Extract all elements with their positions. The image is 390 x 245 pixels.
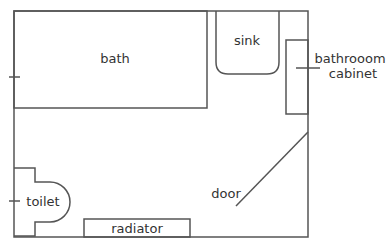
bath: bath [9, 11, 207, 108]
door-label: door [211, 186, 241, 201]
cabinet-outline [286, 40, 308, 114]
cabinet-label-line1: bathrooom [314, 51, 385, 66]
door-swing-line [236, 132, 308, 206]
bathroom-floor-plan: bath sink bathrooom cabinet toilet radia… [0, 0, 390, 245]
bathroom-cabinet: bathrooom cabinet [286, 40, 386, 114]
radiator-label: radiator [111, 221, 163, 236]
toilet-label: toilet [26, 194, 59, 209]
cabinet-label-line2: cabinet [329, 66, 377, 81]
bath-label: bath [100, 51, 130, 66]
radiator: radiator [84, 219, 190, 237]
toilet: toilet [9, 168, 70, 236]
sink: sink [216, 11, 279, 74]
door: door [211, 132, 308, 206]
sink-label: sink [234, 33, 261, 48]
